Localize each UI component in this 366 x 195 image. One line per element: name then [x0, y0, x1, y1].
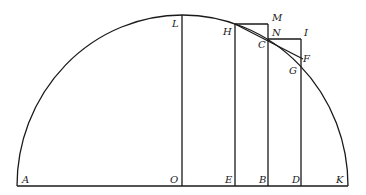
point-label-L: L [171, 18, 179, 29]
semicircle-diagram: AOEBDKLHMNCIFG [0, 0, 366, 195]
point-label-K: K [335, 174, 344, 185]
point-label-E: E [224, 174, 233, 185]
line-HCF [235, 24, 303, 59]
point-label-I: I [303, 27, 309, 38]
point-label-B: B [258, 174, 266, 185]
point-label-H: H [222, 26, 232, 37]
point-label-G: G [289, 65, 297, 76]
point-label-M: M [271, 12, 283, 23]
point-label-N: N [271, 27, 282, 38]
point-label-O: O [170, 174, 178, 185]
point-label-A: A [21, 174, 29, 185]
point-label-D: D [291, 174, 300, 185]
point-label-F: F [302, 53, 311, 64]
point-label-C: C [258, 39, 266, 50]
